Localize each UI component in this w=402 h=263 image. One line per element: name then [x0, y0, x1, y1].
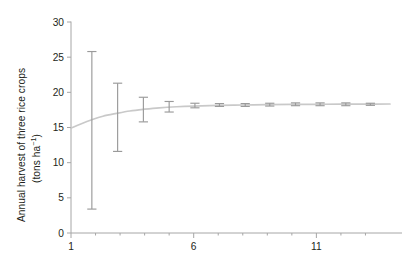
x-tick-label: 1 [68, 241, 74, 252]
fitted-curve-path [71, 104, 390, 128]
error-bar-series [87, 52, 375, 210]
y-tick-label: 15 [53, 122, 65, 133]
plot-canvas: 051015202530 1611 [0, 0, 402, 263]
y-tick-label: 25 [53, 52, 65, 63]
y-tick-label: 20 [53, 87, 65, 98]
y-tick-label: 0 [58, 228, 64, 239]
y-tick-label: 5 [58, 192, 64, 203]
error-bar [113, 83, 122, 151]
y-axis-tick-labels: 051015202530 [53, 17, 65, 239]
x-tick-label: 6 [191, 241, 197, 252]
axis-tick-marks [67, 22, 365, 238]
error-bar [87, 52, 96, 210]
x-tick-label: 11 [311, 241, 322, 252]
fitted-curve-series [71, 104, 390, 128]
chart-figure: Annual harvest of three rice crops (tons… [0, 0, 402, 263]
x-axis-tick-labels: 1611 [68, 241, 322, 252]
axis-lines [71, 22, 402, 234]
y-tick-label: 10 [53, 157, 65, 168]
y-tick-label: 30 [53, 17, 65, 28]
